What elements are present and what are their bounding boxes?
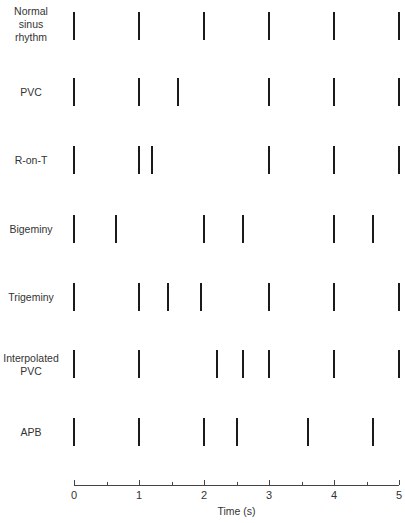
beat-marker (398, 146, 400, 174)
row-label: Normalsinusrhythm (0, 5, 62, 44)
beat-marker (138, 78, 140, 106)
beat-marker (167, 283, 169, 311)
row-label-line: APB (0, 426, 62, 439)
beat-marker (268, 350, 270, 378)
row-label: APB (0, 426, 62, 439)
beat-marker (268, 78, 270, 106)
beat-marker (333, 215, 335, 243)
beat-marker (138, 350, 140, 378)
x-major-tick (139, 480, 140, 485)
x-axis-title: Time (s) (217, 505, 255, 517)
x-tick-label: 1 (136, 489, 142, 501)
row-label-line: Trigeminy (0, 291, 62, 304)
beat-marker (200, 283, 202, 311)
beat-marker (73, 146, 75, 174)
beat-marker (216, 350, 218, 378)
beat-marker (138, 12, 140, 40)
beat-marker (333, 146, 335, 174)
beat-marker (115, 215, 117, 243)
x-major-tick (334, 480, 335, 485)
beat-marker (268, 12, 270, 40)
beat-marker (372, 215, 374, 243)
beat-marker (203, 12, 205, 40)
beat-marker (73, 283, 75, 311)
beat-marker (268, 146, 270, 174)
x-tick-label: 0 (71, 489, 77, 501)
row-label: PVC (0, 86, 62, 99)
row-label-line: Normal (0, 5, 62, 18)
beat-marker (138, 283, 140, 311)
beat-marker (398, 12, 400, 40)
beat-marker (268, 283, 270, 311)
x-minor-tick (237, 482, 238, 485)
row-label-line: sinus (0, 18, 62, 31)
beat-marker (73, 215, 75, 243)
x-minor-tick (367, 482, 368, 485)
x-minor-tick (302, 482, 303, 485)
beat-marker (151, 146, 153, 174)
row-label: InterpolatedPVC (0, 352, 62, 378)
beat-marker (398, 350, 400, 378)
beat-marker (333, 350, 335, 378)
row-label: Bigeminy (0, 223, 62, 236)
beat-marker (398, 78, 400, 106)
beat-marker (398, 283, 400, 311)
x-major-tick (74, 480, 75, 485)
x-minor-tick (107, 482, 108, 485)
beat-marker (138, 146, 140, 174)
beat-marker (73, 12, 75, 40)
beat-marker (242, 350, 244, 378)
beat-marker (177, 78, 179, 106)
row-label-line: PVC (0, 365, 62, 378)
x-axis-line (74, 485, 399, 486)
x-minor-tick (172, 482, 173, 485)
x-major-tick (399, 480, 400, 485)
beat-marker (236, 418, 238, 446)
beat-marker (307, 418, 309, 446)
beat-marker (138, 418, 140, 446)
beat-marker (73, 418, 75, 446)
beat-marker (73, 350, 75, 378)
row-label-line: Interpolated (0, 352, 62, 365)
beat-marker (203, 215, 205, 243)
x-major-tick (204, 480, 205, 485)
beat-marker (242, 215, 244, 243)
beat-marker (333, 78, 335, 106)
x-tick-label: 3 (266, 489, 272, 501)
x-major-tick (269, 480, 270, 485)
beat-marker (203, 418, 205, 446)
ecg-rhythm-chart: NormalsinusrhythmPVCR-on-TBigeminyTrigem… (0, 0, 405, 523)
row-label: Trigeminy (0, 291, 62, 304)
beat-marker (372, 418, 374, 446)
row-label-line: R-on-T (0, 154, 62, 167)
row-label-line: Bigeminy (0, 223, 62, 236)
beat-marker (333, 283, 335, 311)
row-label-line: rhythm (0, 31, 62, 44)
row-label-line: PVC (0, 86, 62, 99)
x-tick-label: 5 (396, 489, 402, 501)
beat-marker (73, 78, 75, 106)
row-label: R-on-T (0, 154, 62, 167)
x-tick-label: 2 (201, 489, 207, 501)
x-tick-label: 4 (331, 489, 337, 501)
beat-marker (333, 12, 335, 40)
